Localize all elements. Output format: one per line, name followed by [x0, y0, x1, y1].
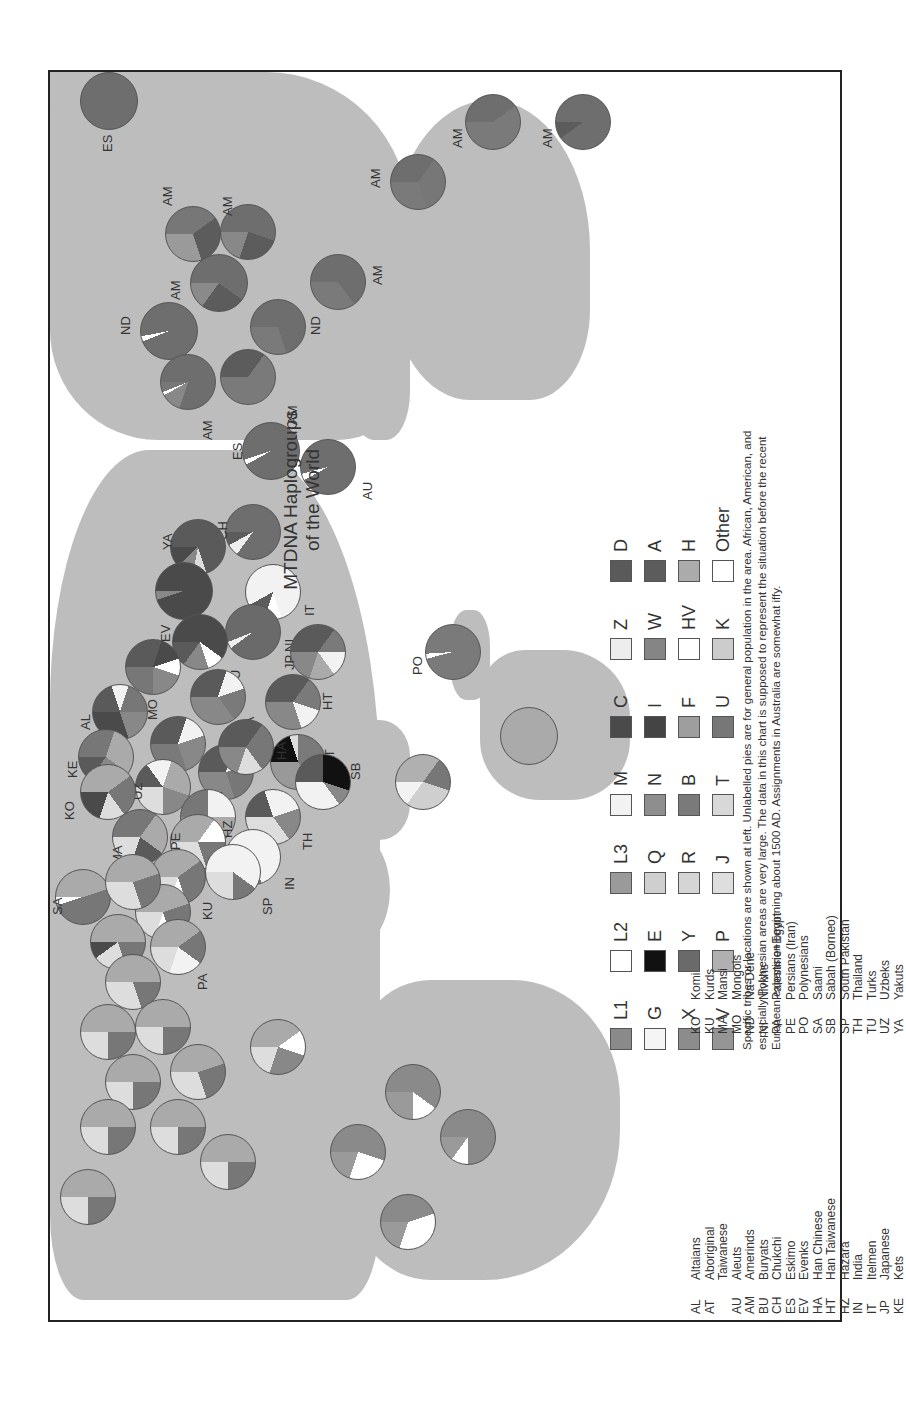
- abbreviation-row: KEKets: [893, 1034, 906, 1314]
- pie-ev: [155, 562, 213, 620]
- legend-item-e: E: [644, 894, 666, 972]
- map-title: MTDNA Haplogroups of the World: [280, 370, 324, 630]
- abbreviation-row: BUBuryats: [758, 1034, 772, 1314]
- abbreviation-code: ND: [744, 1000, 758, 1034]
- land-india: [310, 830, 390, 950]
- abbreviation-row: CHChukchi: [771, 1034, 785, 1314]
- pie-am-sa1: [390, 154, 446, 210]
- abbreviation-row: EVEvenks: [798, 1034, 812, 1314]
- abbreviation-name: Eskimo: [785, 1241, 799, 1280]
- abbreviation-code: HZ: [839, 1280, 853, 1314]
- pie-label: AM: [168, 281, 183, 301]
- abbreviation-row: PEPersians (Iran): [785, 794, 799, 1034]
- pie-pa: [150, 919, 206, 975]
- pie-label: ND: [118, 316, 133, 335]
- abbreviation-name: Altaians: [690, 1237, 704, 1280]
- pie-label: KO: [62, 801, 77, 820]
- abbreviation-row: ESEskimo: [785, 1034, 799, 1314]
- abbreviation-row: JPJapanese: [879, 1034, 893, 1314]
- pie-label: YA: [160, 534, 175, 550]
- abbreviation-name: Mongols: [731, 955, 745, 1000]
- abbreviation-code: UZ: [879, 1000, 893, 1034]
- legend-label: L2: [611, 922, 632, 942]
- pie-am-3: [190, 254, 248, 312]
- abbreviation-code: SB: [825, 1000, 839, 1034]
- pie-ni: [225, 604, 281, 660]
- abbreviation-code: [717, 1280, 731, 1314]
- legend-swatch: [712, 638, 734, 660]
- abbreviation-code: HA: [812, 1280, 826, 1314]
- pie-label: AU: [360, 482, 375, 500]
- pie-new-guinea: [395, 754, 451, 810]
- pie-label: TH: [300, 833, 315, 850]
- legend-item-k: K: [712, 582, 734, 660]
- abbreviation-name: Nivkhs: [758, 964, 772, 1000]
- abbreviation-name: Polynesians: [798, 935, 812, 1000]
- legend-swatch: [610, 794, 632, 816]
- abbreviation-name: Japanese: [879, 1228, 893, 1280]
- pie-label: SP: [260, 898, 275, 915]
- abbreviation-row: PAPalestine+Egypt: [771, 794, 785, 1034]
- pie-am-sa2: [465, 94, 521, 150]
- abbreviation-name: Thailand: [852, 954, 866, 1000]
- pie-am-5: [220, 349, 276, 405]
- legend-swatch: [644, 794, 666, 816]
- pie-eu-5: [135, 999, 191, 1055]
- abbreviation-code: SA: [812, 1000, 826, 1034]
- abbreviation-code: HT: [825, 1280, 839, 1314]
- abbreviation-row: SBSabah (Borneo): [825, 794, 839, 1034]
- abbreviation-code: KU: [704, 1000, 718, 1034]
- legend-item-c: C: [610, 660, 632, 738]
- pie-ha-south2: [218, 719, 274, 775]
- abbreviation-name: Na-Dene: [744, 952, 758, 1000]
- pie-jp: [290, 624, 346, 680]
- abbreviation-code: MO: [731, 1000, 745, 1034]
- pie-nd-2: [250, 299, 306, 355]
- pie-am-sa3: [555, 94, 611, 150]
- abbreviation-name: Mansi: [717, 968, 731, 1000]
- abbreviation-name: Taiwanese: [717, 1223, 731, 1280]
- legend-swatch: [610, 638, 632, 660]
- abbreviation-row: AMAmerinds: [744, 1034, 758, 1314]
- pie-label: HT: [320, 693, 335, 710]
- legend-swatch: [712, 716, 734, 738]
- abbreviation-name: Kets: [893, 1256, 906, 1280]
- abbreviation-code: CH: [771, 1280, 785, 1314]
- abbreviation-row: SASaami: [812, 794, 826, 1034]
- legend-swatch: [678, 716, 700, 738]
- abbreviation-column-2: KOKomiKUKurdsMAMansiMOMongolsNDNa-DeneNI…: [690, 794, 906, 1034]
- legend-label: F: [679, 697, 700, 708]
- legend-label: A: [645, 540, 666, 552]
- abbreviation-row: ATAboriginal: [704, 1034, 718, 1314]
- legend-label: M: [611, 771, 632, 786]
- abbreviation-code: MA: [717, 1000, 731, 1034]
- pie-label: AM: [368, 169, 383, 189]
- abbreviation-row: MOMongols: [731, 794, 745, 1034]
- abbreviation-code: TH: [852, 1000, 866, 1034]
- legend-swatch: [610, 872, 632, 894]
- pie-label: AM: [370, 266, 385, 286]
- abbreviation-name: Aleuts: [731, 1247, 745, 1280]
- abbreviation-code: PE: [785, 1000, 799, 1034]
- legend-swatch: [644, 716, 666, 738]
- legend-label: K: [713, 618, 734, 630]
- abbreviation-name: Saami: [812, 966, 826, 1000]
- abbreviation-column-1: ALAltaiansATAboriginalTaiwaneseAUAleutsA…: [690, 1034, 906, 1314]
- abbreviation-code: KE: [893, 1280, 906, 1314]
- legend-swatch: [644, 560, 666, 582]
- abbreviation-name: Komi: [690, 973, 704, 1000]
- legend-item-w: W: [644, 582, 666, 660]
- pie-label: AM: [540, 129, 555, 149]
- pie-af-5: [380, 1194, 436, 1250]
- abbreviation-row: HTHan Taiwanese: [825, 1034, 839, 1314]
- abbreviation-row: INIndia: [852, 1034, 866, 1314]
- pie-eu-10: [200, 1134, 256, 1190]
- abbreviation-name: Aboriginal: [704, 1227, 718, 1280]
- legend-swatch: [644, 1028, 666, 1050]
- abbreviation-code: BU: [758, 1280, 772, 1314]
- legend-label: N: [645, 773, 666, 786]
- abbreviation-code: AU: [731, 1280, 745, 1314]
- abbreviation-name: Palestine+Egypt: [771, 913, 785, 1000]
- abbreviation-name: Itelmen: [866, 1241, 880, 1280]
- pie-es-greenland: [80, 72, 138, 130]
